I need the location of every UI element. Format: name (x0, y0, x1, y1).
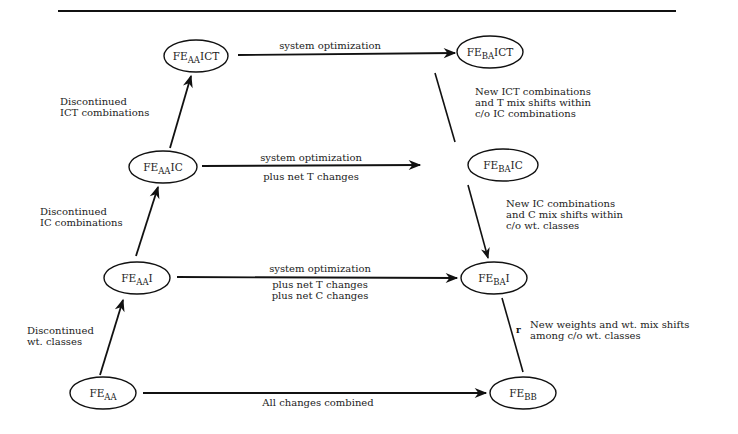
svg-text:FEBAICT: FEBAICT (467, 46, 514, 61)
label-ic-horizontal-2: plus net T changes (263, 171, 359, 182)
label-bottom-horizontal: All changes combined (261, 397, 374, 408)
node-fe-ba-ict: FEBAICT (457, 36, 523, 68)
node-fe-ba-i: FEBAI (461, 262, 527, 294)
label-left-3-line1: Discontinued (60, 96, 127, 107)
label-right-1-line3: c/o IC combinations (475, 108, 576, 119)
svg-text:FEBB: FEBB (509, 387, 536, 402)
arrow-left-1 (100, 300, 123, 375)
label-left-2-line1: Discontinued (40, 206, 107, 217)
label-ic-horizontal-1: system optimization (260, 152, 362, 163)
node-fe-ba-ic: FEBAIC (468, 149, 538, 181)
decomposition-diagram: FEAAICT FEBAICT FEAAIC FEBAIC FEAAI FEBA… (0, 0, 738, 434)
label-right-3-line2: among c/o wt. classes (530, 330, 641, 341)
arrow-right-2 (468, 185, 488, 258)
svg-text:FEAAI: FEAAI (121, 272, 152, 287)
arrow-left-2 (136, 187, 158, 256)
label-right-1-line2: and T mix shifts within (475, 97, 592, 108)
label-right-2-line2: and C mix shifts within (506, 209, 624, 220)
svg-text:FEAAICT: FEAAICT (173, 50, 219, 65)
label-left-3-line2: ICT combinations (60, 107, 149, 118)
label-i-horizontal-3: plus net C changes (272, 290, 369, 301)
arrow-ic-horizontal (202, 165, 420, 166)
label-i-horizontal-1: system optimization (269, 263, 371, 274)
svg-text:FEAAIC: FEAAIC (143, 161, 182, 176)
arrow-i-horizontal (177, 277, 457, 278)
label-left-2-line2: IC combinations (40, 217, 123, 228)
label-right-2-line3: c/o wt. classes (506, 220, 579, 231)
label-right-1-line1: New ICT combinations (475, 86, 591, 97)
label-i-horizontal-2: plus net T changes (272, 279, 368, 290)
label-top-horizontal: system optimization (279, 40, 381, 51)
svg-text:FEAA: FEAA (89, 387, 117, 402)
label-right-2-line1: New IC combinations (506, 198, 615, 209)
label-left-1-line2: wt. classes (27, 336, 82, 347)
node-fe-aa: FEAA (70, 377, 136, 409)
label-right-3-line1: New weights and wt. mix shifts (530, 319, 689, 330)
node-fe-bb: FEBB (490, 377, 556, 409)
svg-text:FEBAI: FEBAI (478, 272, 510, 287)
node-fe-aa-ic: FEAAIC (129, 151, 197, 183)
line-right-1 (435, 73, 455, 142)
svg-text:FEBAIC: FEBAIC (483, 159, 523, 174)
line-right-3 (502, 298, 523, 372)
label-left-1-line1: Discontinued (27, 325, 94, 336)
node-fe-aa-i: FEAAI (104, 262, 170, 294)
node-fe-aa-ict: FEAAICT (164, 40, 228, 72)
arrow-top-horizontal (238, 53, 455, 55)
arrow-left-3 (170, 76, 191, 148)
stray-mark: r (516, 325, 521, 335)
